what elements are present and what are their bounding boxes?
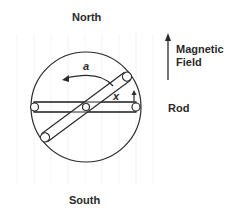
magnetic-field-label-line1: Magnetic [176, 43, 224, 55]
south-label: South [69, 194, 100, 206]
diagram-canvas [0, 0, 247, 211]
angle-x-label: x [113, 90, 119, 102]
north-label: North [72, 11, 101, 23]
magnetic-field-label-line2: Field [176, 56, 202, 68]
rotation-arrow-icon [62, 75, 113, 86]
magnetic-field-arrow-icon [165, 33, 171, 80]
rod-label: Rod [168, 102, 189, 114]
angle-a-label: a [83, 60, 89, 72]
pivot-icon [83, 104, 90, 111]
